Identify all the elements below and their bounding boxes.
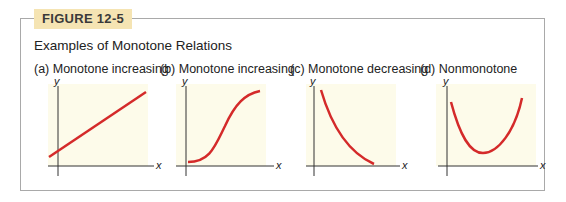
- figure-title: Examples of Monotone Relations: [34, 38, 232, 53]
- panel-b-label: (b) Monotone increasing: [160, 62, 295, 76]
- panel-b-plot: y x: [160, 76, 290, 176]
- panel-c-label: (c) Monotone decreasing: [290, 62, 428, 76]
- svg-text:x: x: [275, 159, 282, 171]
- svg-text:x: x: [401, 159, 408, 171]
- panel-a-plot: y x: [34, 76, 164, 176]
- panel-d-label: (d) Nonmonotone: [420, 62, 517, 76]
- panel-c-plot: y x: [290, 76, 420, 176]
- panel-c: (c) Monotone decreasing y x: [290, 62, 420, 192]
- panel-b: (b) Monotone increasing y x: [160, 62, 290, 192]
- panel-d: (d) Nonmonotone y x: [420, 62, 550, 192]
- svg-text:x: x: [539, 159, 546, 171]
- panel-a-label: (a) Monotone increasing: [34, 62, 169, 76]
- panel-a: (a) Monotone increasing y x: [34, 62, 164, 192]
- figure-tag: FIGURE 12-5: [34, 9, 132, 29]
- panel-d-plot: y x: [420, 76, 550, 176]
